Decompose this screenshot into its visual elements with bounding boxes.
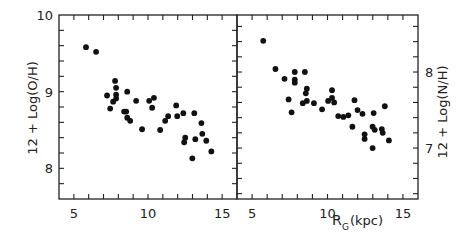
data-point [349, 124, 355, 130]
data-point [165, 113, 171, 119]
data-point [260, 38, 266, 44]
data-point [289, 109, 295, 115]
y-tick-label: 9 [45, 85, 53, 100]
data-point [345, 112, 351, 118]
data-point [182, 135, 188, 141]
data-point [149, 105, 155, 111]
data-point [151, 95, 157, 101]
data-point [319, 106, 325, 112]
y-tick-label: 7 [425, 141, 433, 156]
plot-frame [59, 15, 237, 199]
data-point [282, 76, 288, 82]
data-point [110, 99, 116, 105]
x-tick-label: 15 [214, 206, 231, 221]
data-point [335, 113, 341, 119]
data-point [380, 130, 386, 136]
x-axis-label-unit: (kpc) [350, 213, 383, 228]
x-axis-label-main: R [332, 212, 342, 228]
data-point [371, 110, 377, 116]
scatter-plots: 510158910 5101578 12 + Log(O/H) 12 + Log… [0, 0, 467, 238]
data-point [329, 87, 335, 93]
data-point [174, 113, 180, 119]
abundance-gradient-figure: 510158910 5101578 12 + Log(O/H) 12 + Log… [0, 0, 467, 238]
data-point [189, 155, 195, 161]
data-point [139, 126, 145, 132]
y-tick-label: 8 [425, 65, 433, 80]
data-point [360, 111, 366, 117]
data-point [199, 131, 205, 137]
right-panel-nh: 5101578 [237, 15, 433, 221]
data-point [191, 110, 197, 116]
data-point [192, 136, 198, 142]
data-point [107, 106, 113, 112]
left-y-axis-label: 12 + Log(O/H) [25, 61, 40, 154]
data-point [370, 145, 376, 151]
right-y-axis-label: 12 + Log(N/H) [435, 66, 450, 159]
data-point [304, 98, 310, 104]
data-point [292, 80, 298, 86]
data-point [340, 114, 346, 120]
y-tick-label: 8 [45, 161, 53, 176]
data-point [386, 138, 392, 144]
data-point [203, 138, 209, 144]
data-point [303, 90, 309, 96]
x-axis-label: R G (kpc) [332, 212, 383, 232]
data-point [382, 103, 388, 109]
data-point [292, 69, 298, 75]
x-tick-label: 5 [70, 206, 78, 221]
data-point [123, 109, 129, 115]
data-point [112, 78, 118, 84]
data-point [133, 98, 139, 104]
data-point [173, 103, 179, 109]
data-point [93, 49, 99, 55]
data-point [199, 120, 205, 126]
data-point [355, 107, 361, 113]
data-point [180, 110, 186, 116]
data-point [146, 98, 152, 104]
data-point [127, 118, 133, 124]
data-point [331, 100, 337, 106]
data-point [372, 127, 378, 133]
data-point [273, 66, 279, 72]
x-axis-label-subscript: G [342, 222, 349, 232]
data-point [124, 89, 130, 95]
left-panel-oh: 510158910 [36, 8, 237, 221]
data-point [113, 85, 119, 91]
data-point [302, 69, 308, 75]
x-tick-label: 10 [140, 206, 157, 221]
data-point [83, 44, 89, 50]
data-point [352, 97, 358, 103]
data-point [208, 149, 214, 155]
data-point [311, 100, 317, 106]
data-point [362, 136, 368, 142]
data-point [286, 96, 292, 102]
data-point [104, 93, 110, 99]
x-tick-label: 15 [395, 206, 412, 221]
x-tick-label: 5 [248, 206, 256, 221]
data-point [157, 127, 163, 133]
y-tick-label: 10 [36, 8, 53, 23]
